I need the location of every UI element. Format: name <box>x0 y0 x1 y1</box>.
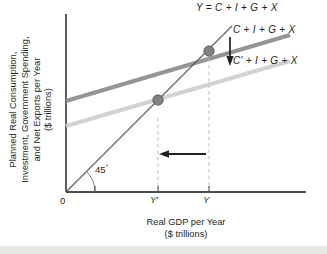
curve-label-reference-line: Y = C + I + G + X <box>196 2 278 14</box>
curve-label-expenditure-shifted: C′ + I + G + X <box>233 55 298 67</box>
angle-label: 45° <box>95 164 108 175</box>
expenditure-initial-line <box>66 35 290 101</box>
x-tick-label-y: Y <box>203 194 209 205</box>
angle-value: 45 <box>95 164 106 175</box>
curve-label-expenditure-initial: C + I + G + X <box>233 24 296 36</box>
x-axis-title-line-1: Real GDP per Year <box>66 216 306 228</box>
equilibrium-point-new <box>153 95 163 105</box>
angle-arc <box>87 172 96 193</box>
x-tick-label-origin: 0 <box>60 195 65 206</box>
x-axis-title: Real GDP per Year ($ trillions) <box>66 216 306 240</box>
expenditure-shifted-line <box>66 61 290 126</box>
page-bottom-band <box>0 246 327 254</box>
leftward-arrow-icon <box>159 150 206 158</box>
equilibrium-point-initial <box>204 46 214 56</box>
degree-symbol: ° <box>106 164 109 171</box>
x-axis-title-line-2: ($ trillions) <box>66 228 306 240</box>
aggregate-expenditure-figure: Planned Real Consumption, Investment, Go… <box>0 0 327 254</box>
x-tick-label-y-prime: Y′ <box>150 194 158 205</box>
